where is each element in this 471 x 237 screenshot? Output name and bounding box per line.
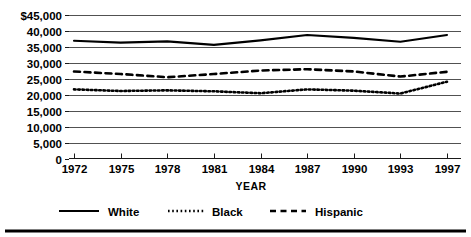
legend-label-white: White: [108, 206, 139, 218]
y-axis-tick-label: 35,000: [27, 42, 62, 54]
y-axis-tick-label: 5,000: [33, 138, 62, 150]
line-chart: $45,00040,00035,00030,00025,00020,00015,…: [0, 0, 471, 237]
legend-label-hispanic: Hispanic: [315, 206, 364, 218]
x-axis-tick-label: 1978: [155, 163, 181, 175]
x-axis-tick-label: 1984: [249, 163, 275, 175]
series-line-black: [74, 82, 447, 94]
x-axis-tick-label: 1987: [295, 163, 321, 175]
data-series-group: [74, 35, 447, 94]
series-line-white: [74, 35, 447, 45]
x-axis-tick-label: 1997: [435, 163, 461, 175]
y-axis-tick-label: 10,000: [27, 122, 62, 134]
legend-label-black: Black: [212, 206, 243, 218]
x-axis-ticks-group: [75, 154, 448, 159]
x-axis-tick-labels-group: 197219751978198119841987199019931997: [62, 163, 461, 175]
y-axis-tick-label: 40,000: [27, 26, 62, 38]
chart-legend: WhiteBlackHispanic: [59, 206, 364, 218]
y-axis-tick-label: 30,000: [27, 58, 62, 70]
x-axis-tick-label: 1981: [202, 163, 228, 175]
gridlines-group: [69, 16, 461, 144]
x-axis-title: YEAR: [236, 180, 267, 192]
y-axis-ticks-group: [65, 16, 69, 160]
y-axis-tick-label: 15,000: [27, 106, 62, 118]
chart-figure: $45,00040,00035,00030,00025,00020,00015,…: [0, 0, 471, 237]
y-axis-tick-label: $45,000: [20, 10, 62, 22]
x-axis-tick-label: 1993: [388, 163, 414, 175]
y-axis-tick-label: 20,000: [27, 90, 62, 102]
y-axis-tick-labels-group: $45,00040,00035,00030,00025,00020,00015,…: [20, 10, 62, 166]
x-axis-tick-label: 1972: [62, 163, 88, 175]
x-axis-tick-label: 1990: [342, 163, 368, 175]
x-axis-tick-label: 1975: [109, 163, 135, 175]
y-axis-tick-label: 25,000: [27, 74, 62, 86]
series-line-hispanic: [74, 69, 447, 77]
